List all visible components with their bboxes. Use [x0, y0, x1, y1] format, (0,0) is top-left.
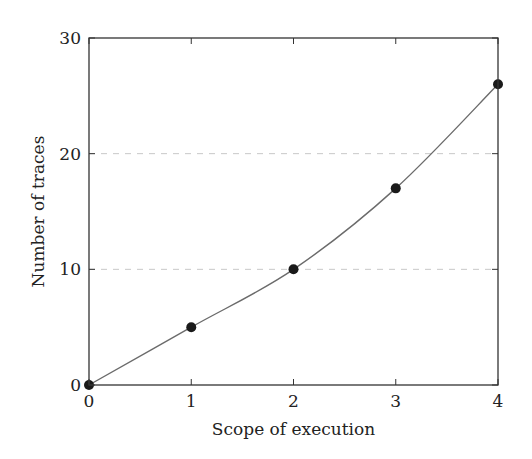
data-point-marker [186, 322, 196, 332]
y-tick-label: 0 [70, 375, 81, 395]
x-tick-label: 3 [390, 391, 401, 411]
x-axis-label: Scope of execution [212, 419, 375, 439]
line-chart: 01234 0102030 Scope of execution Number … [0, 0, 532, 459]
data-point-marker [289, 264, 299, 274]
data-point-marker [391, 183, 401, 193]
y-axis-ticks: 0102030 [59, 28, 498, 395]
plot-frame [89, 38, 498, 385]
y-gridlines [89, 154, 498, 270]
y-tick-label: 10 [59, 259, 81, 279]
y-tick-label: 30 [59, 28, 81, 48]
y-axis-label: Number of traces [28, 136, 48, 288]
x-tick-label: 0 [84, 391, 95, 411]
x-axis-ticks: 01234 [84, 38, 504, 411]
y-tick-label: 20 [59, 144, 81, 164]
series-line [89, 84, 498, 385]
x-tick-label: 1 [186, 391, 197, 411]
x-tick-label: 4 [493, 391, 504, 411]
x-tick-label: 2 [288, 391, 299, 411]
data-series [84, 79, 503, 390]
